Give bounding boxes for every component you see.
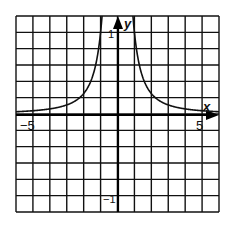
x-axis-label: x xyxy=(202,99,211,114)
x-tick-label-neg5: −5 xyxy=(20,118,35,133)
y-tick-label-neg1: −1 xyxy=(103,193,116,205)
y-tick-label-pos1: 1 xyxy=(108,28,114,40)
function-graph: x y −5 5 1 −1 xyxy=(0,0,229,226)
x-tick-label-pos5: 5 xyxy=(196,118,203,133)
y-axis-label: y xyxy=(123,16,132,31)
